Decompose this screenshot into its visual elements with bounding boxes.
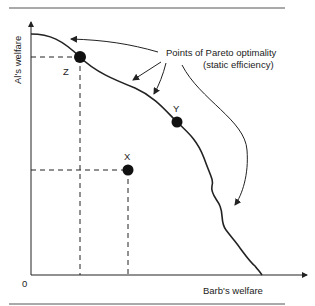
- y-axis-label: Al's welfare: [13, 36, 23, 84]
- point-x-label: X: [124, 152, 130, 162]
- arrow-to-mid1: [133, 62, 161, 80]
- point-z-label: Z: [63, 67, 69, 77]
- annotation-line-1: Points of Pareto optimality: [166, 48, 276, 58]
- x-axis-label: Barb's welfare: [203, 286, 263, 296]
- arrow-to-mid2: [154, 63, 166, 94]
- pareto-diagram: [0, 0, 315, 306]
- arrow-to-z: [71, 39, 158, 52]
- arrow-to-lower: [182, 65, 247, 205]
- annotation-line-2: (static efficiency): [203, 60, 274, 70]
- point-z: [74, 51, 86, 63]
- point-x: [123, 165, 134, 176]
- point-y-label: Y: [173, 104, 179, 114]
- origin-label: 0: [22, 279, 27, 289]
- point-y: [172, 117, 183, 128]
